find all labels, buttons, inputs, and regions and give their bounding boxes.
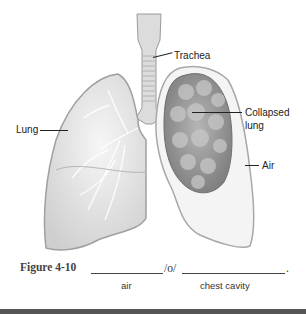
blank-1-hint: air [121, 280, 132, 291]
blank-2-hint: chest cavity [200, 280, 250, 291]
answer-blank-1[interactable] [91, 273, 163, 274]
caption-end-mark: . [286, 262, 289, 274]
combining-vowel-separator: /o/ [164, 262, 176, 274]
answer-blank-2[interactable] [182, 273, 285, 274]
lung-label: Lung [16, 124, 38, 135]
air-leader-line [245, 165, 259, 166]
air-label: Air [262, 160, 274, 171]
collapsed-lung-label-line1: Collapsed [245, 107, 289, 118]
page-bottom-bar [0, 309, 306, 314]
collapsed-lung-label-line2: lung [245, 120, 264, 131]
trachea-label: Trachea [174, 50, 210, 61]
lung-leader-line [40, 130, 68, 131]
figure-number: Figure 4-10 [20, 261, 76, 273]
collapsed-lung-leader-line [192, 112, 242, 113]
